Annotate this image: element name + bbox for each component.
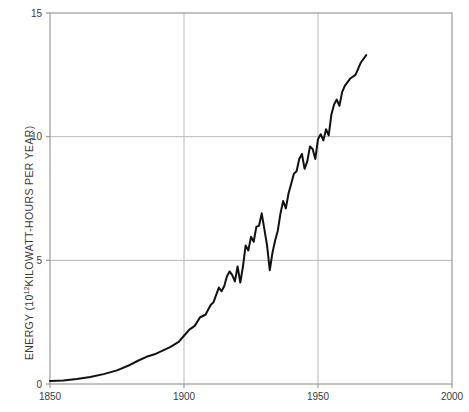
y-tick-label: 5	[36, 255, 42, 266]
chart-background	[0, 0, 469, 412]
y-tick-label: 0	[36, 379, 42, 390]
y-tick-label: 15	[31, 8, 43, 19]
x-tick-label: 1950	[307, 391, 330, 402]
x-tick-label: 1850	[39, 391, 62, 402]
y-axis-title: ENERGY (10 12 KILOWATT-HOURS PER YEAR)	[23, 125, 35, 360]
energy-line-chart: 0510151850190019502000 ENERGY (10 12 KIL…	[0, 0, 469, 412]
x-tick-label: 1900	[173, 391, 196, 402]
y-axis-title-part-2: KILOWATT-HOURS PER YEAR)	[23, 125, 35, 286]
chart-canvas: 0510151850190019502000 ENERGY (10 12 KIL…	[0, 0, 469, 412]
y-axis-title-part-1: ENERGY (10	[23, 294, 35, 360]
x-tick-label: 2000	[441, 391, 464, 402]
y-axis-title-exponent: 12	[23, 286, 30, 294]
